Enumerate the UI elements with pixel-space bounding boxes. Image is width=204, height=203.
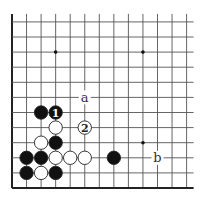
black-stone-icon bbox=[34, 151, 47, 164]
black-stone-icon bbox=[34, 106, 47, 119]
white-stone-icon bbox=[49, 151, 62, 164]
white-stone-icon bbox=[78, 151, 91, 164]
star-point-icon bbox=[141, 50, 145, 54]
black-stone-icon bbox=[49, 136, 62, 149]
black-stone-icon bbox=[20, 151, 33, 164]
star-point-icon bbox=[54, 50, 58, 54]
white-stone-icon bbox=[63, 151, 76, 164]
white-stone-icon bbox=[34, 166, 47, 179]
white-stone-icon bbox=[49, 121, 62, 134]
star-point-icon bbox=[141, 141, 145, 145]
move-number-label: 2 bbox=[81, 122, 89, 135]
marker-b-label: b bbox=[153, 150, 161, 165]
marker-a-label: a bbox=[81, 90, 89, 105]
white-stone-icon bbox=[34, 136, 47, 149]
black-stone-icon bbox=[20, 166, 33, 179]
black-stone-icon bbox=[107, 151, 120, 164]
move-number-label: 1 bbox=[52, 107, 60, 120]
black-stone-icon bbox=[49, 166, 62, 179]
go-board-diagram: ab 12 bbox=[0, 0, 204, 203]
